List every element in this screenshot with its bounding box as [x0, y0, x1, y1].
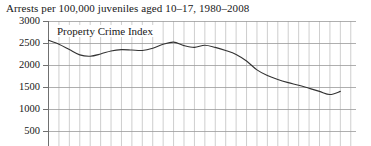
gridlines-vertical-minor	[49, 21, 351, 146]
plot-area	[48, 21, 356, 146]
y-tick-label: 1500	[19, 82, 40, 93]
chart-canvas	[48, 21, 356, 146]
gridlines-horizontal-major	[48, 22, 356, 132]
y-tick-mark	[43, 131, 48, 132]
y-tick-mark	[43, 65, 48, 66]
y-axis: 30002500200015001000500	[0, 0, 48, 146]
chart-page: Arrests per 100,000 juveniles aged 10–17…	[0, 0, 371, 146]
y-tick-mark	[43, 109, 48, 110]
y-tick-label: 1000	[19, 104, 40, 115]
y-tick-mark	[43, 43, 48, 44]
y-tick-label: 3000	[19, 16, 40, 27]
y-tick-mark	[43, 87, 48, 88]
y-tick-mark	[43, 21, 48, 22]
series-label-property-crime-index: Property Crime Index	[56, 25, 155, 37]
y-tick-label: 2500	[19, 38, 40, 49]
y-tick-label: 2000	[19, 60, 40, 71]
y-tick-label: 500	[24, 126, 40, 137]
